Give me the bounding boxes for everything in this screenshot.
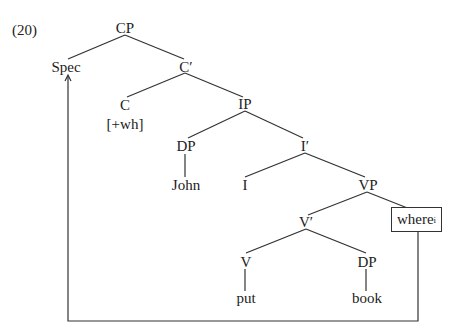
node-i-bar: I′ (301, 138, 309, 154)
node-dp-subject: DP (176, 138, 195, 154)
node-dp-object: DP (357, 254, 376, 270)
node-ip: IP (238, 96, 251, 112)
node-where: where (397, 211, 434, 228)
node-cp: CP (116, 20, 134, 36)
node-john: John (172, 177, 200, 193)
node-v-bar: V′ (299, 214, 313, 230)
node-spec: Spec (51, 59, 80, 75)
node-c-feature: [+wh] (107, 116, 144, 132)
node-where-box: wherei (391, 207, 442, 232)
node-where-index: i (434, 215, 437, 225)
node-put: put (236, 290, 255, 306)
node-v: V (241, 254, 252, 270)
node-vp: VP (358, 177, 377, 193)
example-number: (20) (12, 22, 37, 39)
tree-branches (0, 0, 461, 333)
node-c-bar: C′ (179, 59, 192, 75)
node-i: I (243, 177, 248, 193)
node-c: C (120, 97, 130, 113)
node-book: book (352, 290, 382, 306)
